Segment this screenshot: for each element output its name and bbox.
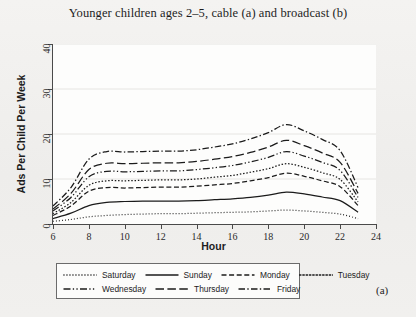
y-tick-label: 30 bbox=[41, 89, 52, 99]
legend-swatch-sunday-icon bbox=[145, 271, 179, 279]
x-tick-mark bbox=[53, 224, 54, 229]
x-tick-mark bbox=[197, 224, 198, 229]
legend-item-thursday[interactable]: Thursday bbox=[155, 284, 229, 294]
legend-item-sunday[interactable]: Sunday bbox=[145, 270, 212, 280]
x-axis-title: Hour bbox=[52, 240, 375, 252]
legend-swatch-saturday-icon bbox=[63, 271, 97, 279]
x-tick-mark bbox=[268, 224, 269, 229]
y-tick-label: 20 bbox=[41, 134, 52, 144]
legend-item-wednesday[interactable]: Wednesday bbox=[63, 284, 146, 294]
legend-label: Thursday bbox=[194, 284, 229, 294]
legend-row: SaturdaySundayMondayTuesday bbox=[63, 268, 293, 282]
chart-legend: SaturdaySundayMondayTuesdayWednesdayThur… bbox=[56, 263, 300, 299]
legend-item-tuesday[interactable]: Tuesday bbox=[299, 270, 370, 280]
legend-item-saturday[interactable]: Saturday bbox=[63, 270, 136, 280]
legend-row: WednesdayThursdayFriday bbox=[63, 282, 293, 296]
legend-label: Tuesday bbox=[338, 270, 370, 280]
legend-swatch-tuesday-icon bbox=[299, 271, 333, 279]
legend-item-monday[interactable]: Monday bbox=[221, 270, 290, 280]
legend-swatch-friday-icon bbox=[238, 285, 272, 293]
y-tick-label: 0 bbox=[41, 224, 52, 229]
series-line-saturday bbox=[53, 210, 358, 221]
x-tick-mark bbox=[89, 224, 90, 229]
legend-label: Wednesday bbox=[102, 284, 146, 294]
legend-swatch-wednesday-icon bbox=[63, 285, 97, 293]
legend-swatch-thursday-icon bbox=[155, 285, 189, 293]
plot-area: 010203040 681012141618202224 bbox=[52, 44, 376, 225]
legend-label: Sunday bbox=[184, 270, 212, 280]
panel-label: (a) bbox=[376, 284, 388, 296]
legend-label: Saturday bbox=[102, 270, 136, 280]
y-tick-label: 10 bbox=[41, 179, 52, 189]
legend-swatch-monday-icon bbox=[221, 271, 255, 279]
x-tick-mark bbox=[161, 224, 162, 229]
legend-item-friday[interactable]: Friday bbox=[238, 284, 300, 294]
series-line-sunday bbox=[53, 192, 358, 219]
series-line-thursday bbox=[53, 140, 358, 209]
x-tick-mark bbox=[232, 224, 233, 229]
x-tick-mark bbox=[340, 224, 341, 229]
y-axis-title-text: Ads Per Child Per Week bbox=[15, 75, 27, 194]
chart-title: Younger children ages 2–5, cable (a) and… bbox=[0, 6, 416, 21]
legend-label: Friday bbox=[277, 284, 300, 294]
plot-svg bbox=[53, 44, 376, 224]
legend-label: Monday bbox=[260, 270, 290, 280]
series-lines bbox=[53, 125, 358, 222]
x-tick-mark bbox=[125, 224, 126, 229]
x-tick-mark bbox=[376, 224, 377, 229]
x-tick-mark bbox=[304, 224, 305, 229]
figure-container: Younger children ages 2–5, cable (a) and… bbox=[0, 0, 416, 317]
y-axis-title: Ads Per Child Per Week bbox=[14, 44, 28, 224]
y-tick-label: 40 bbox=[41, 44, 52, 54]
